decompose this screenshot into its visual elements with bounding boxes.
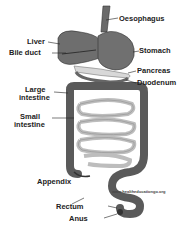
label-liver: Liver [27, 38, 45, 46]
watermark: www.healtheducationgo.org [112, 189, 165, 194]
label-rectum: Rectum [56, 203, 84, 211]
label-small-intestine-line2: intestine [14, 121, 45, 129]
label-anus: Anus [69, 215, 88, 223]
digestive-system-diagram: Oesophagus Liver Bile duct Stomach Pancr… [0, 0, 185, 225]
label-stomach: Stomach [139, 47, 171, 55]
label-oesophagus: Oesophagus [119, 15, 164, 23]
anus-shape [117, 209, 123, 215]
label-bile-duct: Bile duct [9, 49, 41, 57]
oesophagus-shape [101, 6, 110, 32]
liver-shape [58, 31, 100, 65]
stomach-shape [98, 31, 134, 70]
ascending-colon-shape [70, 92, 78, 174]
label-large-intestine-line2: intestine [19, 94, 50, 102]
label-pancreas: Pancreas [137, 67, 170, 75]
label-duodenum: Duodenum [137, 79, 176, 87]
label-appendix: Appendix [37, 178, 71, 186]
